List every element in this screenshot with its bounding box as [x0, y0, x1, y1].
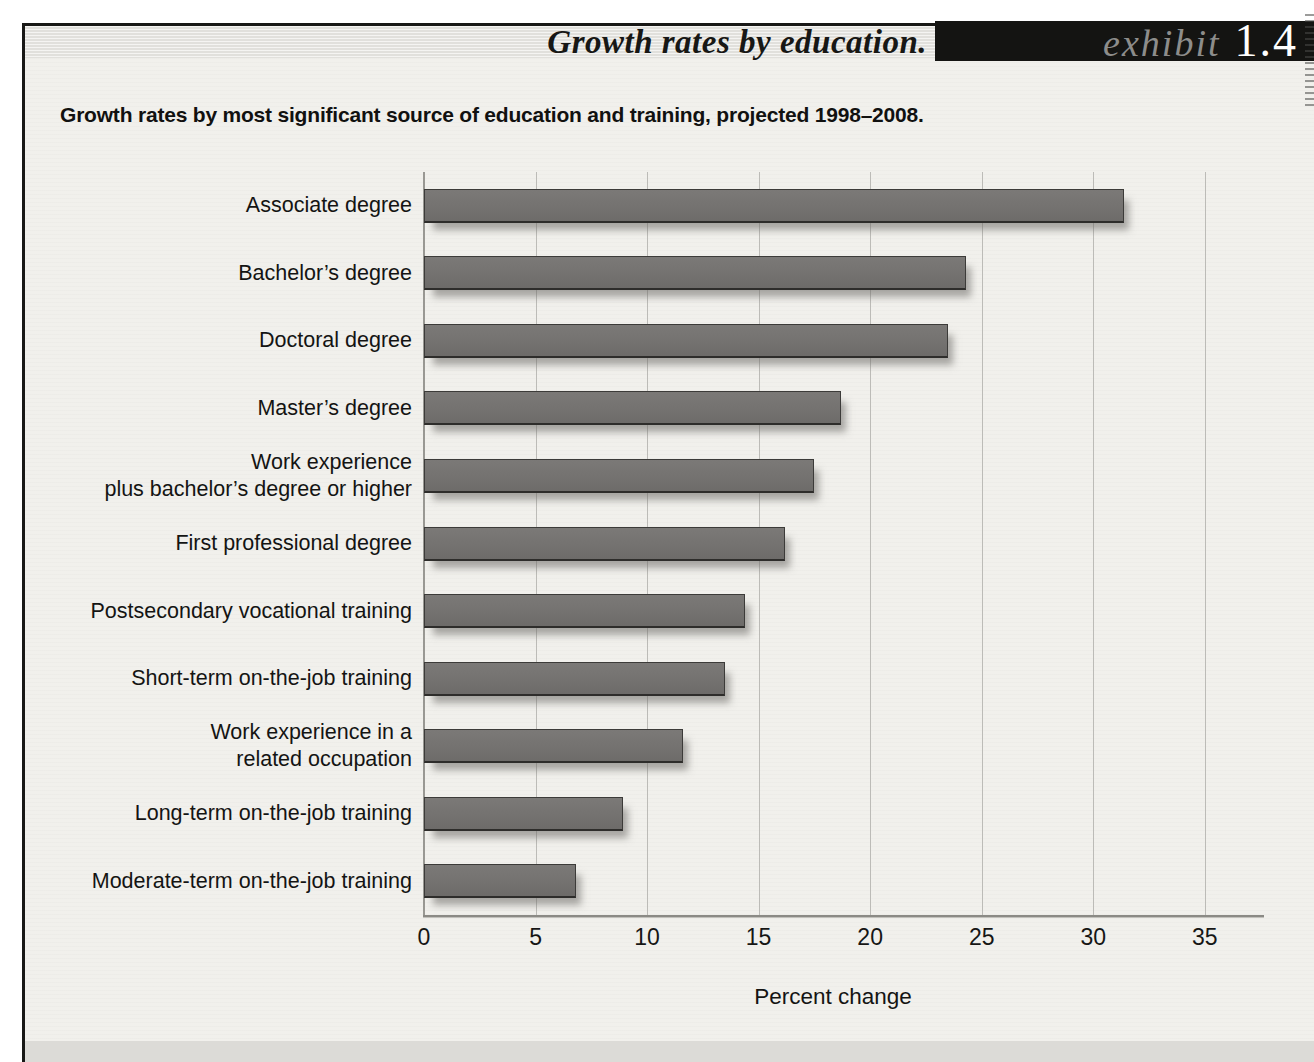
bar [424, 391, 841, 425]
bar [424, 324, 948, 358]
x-tick-label: 35 [1192, 924, 1218, 951]
x-tick-label: 25 [969, 924, 995, 951]
category-label: Bachelor’s degree [238, 260, 412, 287]
category-label: Doctoral degree [259, 327, 412, 354]
bar-row [424, 577, 1242, 645]
bar [424, 729, 683, 763]
bar [424, 459, 814, 493]
bar-row [424, 442, 1242, 510]
label-row: Doctoral degree [40, 307, 412, 375]
category-label: Associate degree [246, 192, 412, 219]
chart-subtitle: Growth rates by most significant source … [60, 103, 1280, 127]
bar-row [424, 375, 1242, 443]
bar-chart [424, 172, 1242, 915]
category-label: Master’s degree [257, 395, 412, 422]
label-row: Work experience plus bachelor’s degree o… [40, 442, 412, 510]
category-label: Short-term on-the-job training [131, 665, 412, 692]
bar-row [424, 172, 1242, 240]
bar [424, 256, 966, 290]
exhibit-number: 1.4 [1235, 15, 1299, 66]
category-label: First professional degree [175, 530, 412, 557]
bar [424, 864, 576, 898]
x-tick-label: 0 [418, 924, 431, 951]
x-axis-line [423, 915, 1264, 918]
category-label: Work experience in a related occupation [210, 719, 412, 773]
bar-row [424, 847, 1242, 915]
header-strip: Growth rates by education. [25, 26, 935, 58]
bar-row [424, 712, 1242, 780]
bar [424, 797, 623, 831]
label-row: Bachelor’s degree [40, 240, 412, 308]
category-label: Work experience plus bachelor’s degree o… [104, 449, 412, 503]
x-tick-label: 5 [529, 924, 542, 951]
category-label: Long-term on-the-job training [135, 800, 412, 827]
x-tick-label: 10 [634, 924, 660, 951]
bar [424, 527, 785, 561]
label-row: Postsecondary vocational training [40, 577, 412, 645]
bar [424, 594, 745, 628]
label-row: Associate degree [40, 172, 412, 240]
bar-row [424, 645, 1242, 713]
category-label: Moderate-term on-the-job training [92, 868, 412, 895]
bar-row [424, 240, 1242, 308]
bar-row [424, 780, 1242, 848]
bar [424, 189, 1124, 223]
exhibit-badge: exhibit1.4 [935, 21, 1314, 61]
page-title: Growth rates by education. [547, 24, 927, 61]
exhibit-label: exhibit [1103, 22, 1220, 64]
label-row: Moderate-term on-the-job training [40, 847, 412, 915]
category-labels: Associate degreeBachelor’s degreeDoctora… [40, 172, 412, 915]
page-bottom-band [25, 1041, 1314, 1062]
x-tick-label: 15 [746, 924, 772, 951]
bar [424, 662, 725, 696]
label-row: Long-term on-the-job training [40, 780, 412, 848]
category-label: Postsecondary vocational training [91, 598, 413, 625]
x-tick-label: 20 [857, 924, 883, 951]
label-row: Work experience in a related occupation [40, 712, 412, 780]
label-row: First professional degree [40, 510, 412, 578]
label-row: Short-term on-the-job training [40, 645, 412, 713]
bar-row [424, 307, 1242, 375]
label-row: Master’s degree [40, 375, 412, 443]
bar-row [424, 510, 1242, 578]
x-axis-title: Percent change [424, 984, 1242, 1010]
bar-rows [424, 172, 1242, 915]
x-axis-ticks: 05101520253035 [424, 924, 1242, 954]
x-tick-label: 30 [1080, 924, 1106, 951]
scan-artifact-marks [1305, 14, 1314, 106]
